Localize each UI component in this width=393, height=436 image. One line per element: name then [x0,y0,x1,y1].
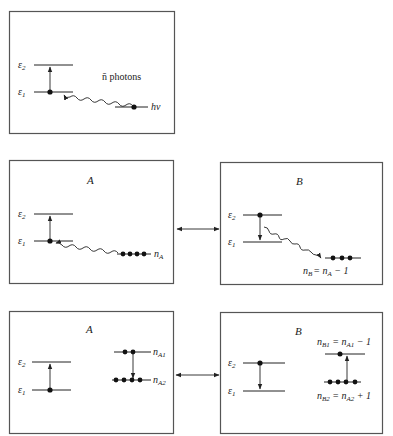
electron-dot [257,360,262,365]
photon-dot [135,252,140,257]
photon-wave [56,243,118,254]
photon-dot [121,252,126,257]
mode2-label: nA2 [153,374,166,387]
photon-dot [131,104,136,109]
panel-mid-a: A ε2 ε1 nA [10,161,174,284]
photon-dot [344,380,349,385]
photon-dot [128,252,133,257]
photon-wave [64,95,133,106]
photon-dot [142,252,147,257]
mode1-label: nA1 [153,346,166,359]
panel-top-frame [10,12,175,134]
photons-label: n̄ photons [102,71,141,82]
photon-count-label: nA [154,248,164,261]
photon-dot [122,378,127,383]
electron-dot [257,212,262,217]
panel-bot-b: B ε2 ε1 nB1 = nA1 − 1 nB2 = nA2 + 1 [221,313,383,434]
epsilon2-label: ε2 [228,209,236,222]
photon-dot [123,350,128,355]
epsilon1-label: ε1 [18,86,25,99]
epsilon1-label: ε1 [18,384,25,397]
photon-dot [331,256,336,261]
panel-title-a: A [86,174,94,186]
epsilon2-label: ε2 [228,357,236,370]
epsilon2-label: ε2 [18,208,26,221]
electron-dot [47,89,52,94]
panel-title-b: B [295,325,302,337]
photon-dot [138,378,143,383]
epsilon1-label: ε1 [228,385,235,398]
panel-mid-b: B ε2 ε1 nB= nA − 1 [221,163,383,285]
photon-count-equation: nB= nA − 1 [303,265,349,278]
epsilon2-label: ε2 [18,356,26,369]
photon-dot [336,380,341,385]
epsilon2-label: ε2 [18,59,26,72]
photon-dot [130,378,135,383]
photon-dot [348,256,353,261]
energy-level-diagram: ε2 ε1 n̄ photons hν A ε2 ε1 nA B ε2 [0,0,393,436]
photon-dot [340,256,345,261]
panel-top: ε2 ε1 n̄ photons hν [10,12,175,134]
epsilon1-label: ε1 [18,235,25,248]
mode2-equation: nB2 = nA2 + 1 [317,390,371,403]
panel-bot-a: A ε2 ε1 nA1 nA2 [10,312,174,434]
panel-title-b: B [296,175,303,187]
electron-dot [47,238,52,243]
photon-dot [338,352,343,357]
electron-dot [47,387,52,392]
photon-dot [328,380,333,385]
photon-dot [353,380,358,385]
photon-dot [114,378,119,383]
epsilon1-label: ε1 [228,236,235,249]
panel-title-a: A [85,323,93,335]
mode1-equation: nB1 = nA1 − 1 [317,336,371,349]
hv-label: hν [151,101,161,112]
